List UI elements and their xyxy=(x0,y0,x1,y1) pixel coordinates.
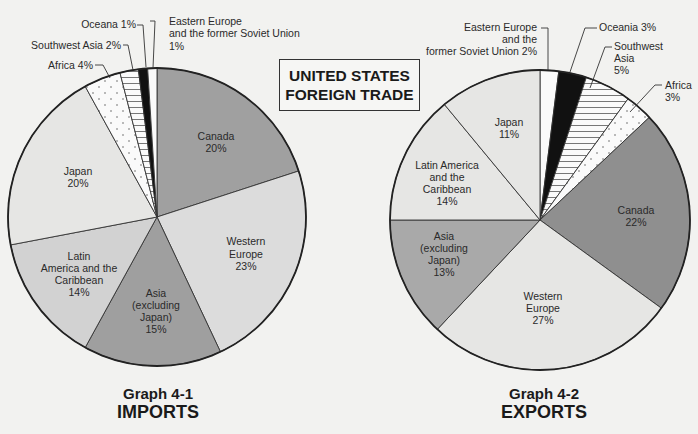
value-exports-africa: 3% xyxy=(665,91,680,103)
title-line-2: FOREIGN TRADE xyxy=(280,85,419,104)
imports-graph-number: Graph 4-1 xyxy=(123,385,193,402)
label-exports-eeurope-1: Eastern Europe xyxy=(464,21,537,33)
label-imports-eeurope-3: 1% xyxy=(169,40,184,52)
label-imports-swasia: Southwest Asia 2% xyxy=(31,39,121,51)
label-imports-africa: Africa 4% xyxy=(48,59,93,71)
title-line-1: UNITED STATES xyxy=(280,66,419,85)
chart-title-box: UNITED STATES FOREIGN TRADE xyxy=(279,59,420,111)
label-exports-eeurope-2: and the xyxy=(502,33,537,45)
label-imports-latin-3: Caribbean xyxy=(55,274,104,286)
label-exports-africa: Africa xyxy=(665,79,692,91)
label-exports-oceania: Oceania 3% xyxy=(599,21,656,33)
value-exports-weurope: 27% xyxy=(532,314,553,326)
label-imports-eeurope-2: and the former Soviet Union xyxy=(169,27,300,39)
label-exports-latin-2: and the xyxy=(429,171,464,183)
label-exports-eeurope-3: former Soviet Union 2% xyxy=(426,45,537,57)
label-exports-asia-2: (excluding xyxy=(420,242,468,254)
value-imports-japan: 20% xyxy=(67,177,88,189)
value-exports-canada: 22% xyxy=(625,216,646,228)
value-imports-latin: 14% xyxy=(68,286,89,298)
label-imports-oceana: Oceana 1% xyxy=(81,18,136,30)
label-exports-weurope-2: Europe xyxy=(526,302,560,314)
value-imports-weurope: 23% xyxy=(235,260,256,272)
value-exports-asia: 13% xyxy=(433,266,454,278)
label-imports-eeurope-1: Eastern Europe xyxy=(169,15,242,27)
label-imports-weurope-2: Europe xyxy=(229,248,263,260)
label-imports-asia-3: Japan) xyxy=(140,311,172,323)
label-imports-weurope: Western xyxy=(227,235,266,247)
label-exports-swasia: Southwest xyxy=(614,40,663,52)
exports-caption: EXPORTS xyxy=(501,402,587,422)
label-imports-latin: Latin xyxy=(68,250,91,262)
label-exports-latin: Latin America xyxy=(415,159,479,171)
label-exports-asia-3: Japan) xyxy=(428,254,460,266)
label-imports-japan: Japan xyxy=(64,165,93,177)
value-exports-japan: 11% xyxy=(499,128,519,140)
label-imports-canada: Canada xyxy=(198,130,235,142)
label-imports-latin-2: America and the xyxy=(41,262,118,274)
imports-caption: IMPORTS xyxy=(117,402,199,422)
label-exports-latin-3: Caribbean xyxy=(423,183,472,195)
label-imports-asia-2: (excluding xyxy=(132,299,180,311)
value-imports-asia: 15% xyxy=(145,323,166,335)
label-exports-weurope: Western xyxy=(524,290,563,302)
value-exports-latin: 14% xyxy=(436,195,457,207)
label-imports-asia: Asia xyxy=(146,287,167,299)
value-exports-swasia: 5% xyxy=(614,64,629,76)
value-imports-canada: 20% xyxy=(205,142,226,154)
label-exports-swasia-2: Asia xyxy=(614,52,635,64)
exports-graph-number: Graph 4-2 xyxy=(509,385,579,402)
label-exports-asia: Asia xyxy=(434,230,455,242)
label-exports-canada: Canada xyxy=(618,204,655,216)
label-exports-japan: Japan xyxy=(495,116,524,128)
